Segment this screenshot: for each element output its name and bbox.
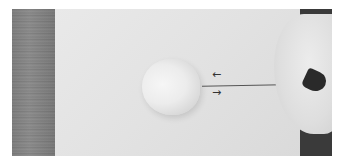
felting-photo: ← →: [12, 9, 332, 156]
wood-surface: [12, 9, 55, 156]
wool-ball: [142, 59, 200, 115]
arrow-right-icon: →: [212, 87, 221, 98]
arrow-left-icon: ←: [212, 69, 221, 80]
